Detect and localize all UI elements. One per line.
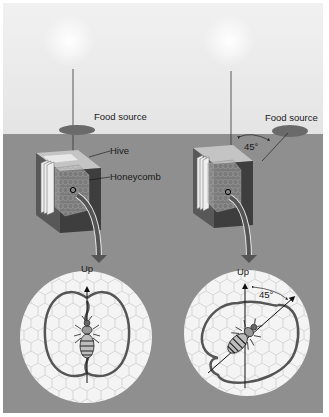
label-angle-dance: 45° bbox=[259, 290, 273, 300]
label-food-source-right: Food source bbox=[265, 113, 318, 123]
label-angle-field: 45° bbox=[244, 142, 258, 152]
label-honeycomb: Honeycomb bbox=[110, 172, 161, 182]
food-bush-left bbox=[59, 125, 95, 135]
comb-circle-left bbox=[20, 271, 152, 403]
sun-right bbox=[203, 15, 255, 67]
label-up-left: Up bbox=[81, 264, 93, 274]
angle-arc-field bbox=[239, 135, 269, 140]
comb-circle-right bbox=[184, 270, 310, 396]
diagram-graphics bbox=[3, 3, 323, 413]
diagram-canvas: Food source Hive Honeycomb Up Food sourc… bbox=[3, 3, 323, 413]
label-hive: Hive bbox=[110, 146, 129, 156]
food-bush-right bbox=[272, 125, 308, 137]
label-food-source-left: Food source bbox=[94, 112, 147, 122]
sun-left bbox=[43, 15, 95, 67]
hive-left bbox=[36, 150, 110, 233]
label-up-right: Up bbox=[237, 267, 249, 277]
